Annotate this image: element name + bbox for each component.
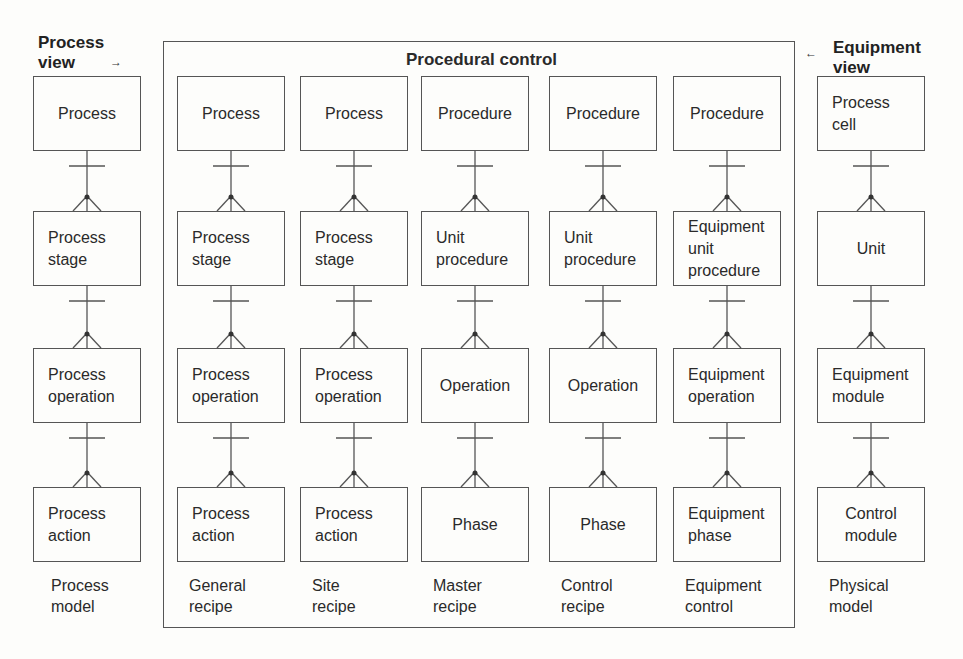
entity-box-process-model-4: Processaction — [33, 487, 141, 562]
entity-label: Process — [301, 103, 407, 125]
column-caption-master-recipe: Masterrecipe — [433, 575, 543, 617]
entity-label: Processoperation — [178, 364, 284, 408]
entity-label: Phase — [550, 514, 656, 536]
entity-label: Equipmentmodule — [818, 364, 924, 408]
entity-label: Processstage — [301, 227, 407, 271]
column-caption-site-recipe: Siterecipe — [312, 575, 422, 617]
entity-box-equipment-control-3: Equipmentoperation — [673, 348, 781, 423]
column-caption-control-recipe: Controlrecipe — [561, 575, 671, 617]
entity-box-general-recipe-2: Processstage — [177, 211, 285, 286]
entity-box-physical-model-1: Processcell — [817, 76, 925, 151]
entity-box-master-recipe-2: Unitprocedure — [421, 211, 529, 286]
entity-label: Processstage — [178, 227, 284, 271]
entity-label: Equipmentunitprocedure — [674, 216, 780, 282]
entity-box-equipment-control-1: Procedure — [673, 76, 781, 151]
entity-label: Unitprocedure — [550, 227, 656, 271]
entity-label: Processaction — [301, 503, 407, 547]
entity-box-equipment-control-2: Equipmentunitprocedure — [673, 211, 781, 286]
entity-label: Process — [34, 103, 140, 125]
entity-label: Processaction — [34, 503, 140, 547]
entity-box-control-recipe-4: Phase — [549, 487, 657, 562]
entity-label: Process — [178, 103, 284, 125]
entity-box-site-recipe-1: Process — [300, 76, 408, 151]
entity-box-physical-model-4: Controlmodule — [817, 487, 925, 562]
entity-box-master-recipe-1: Procedure — [421, 76, 529, 151]
entity-box-equipment-control-4: Equipmentphase — [673, 487, 781, 562]
entity-label: Equipmentoperation — [674, 364, 780, 408]
column-caption-physical-model: Physicalmodel — [829, 575, 939, 617]
entity-box-process-model-1: Process — [33, 76, 141, 151]
entity-box-master-recipe-3: Operation — [421, 348, 529, 423]
entity-label: Operation — [422, 375, 528, 397]
column-caption-general-recipe: Generalrecipe — [189, 575, 299, 617]
entity-box-process-model-2: Processstage — [33, 211, 141, 286]
entity-label: Phase — [422, 514, 528, 536]
entity-box-physical-model-2: Unit — [817, 211, 925, 286]
entity-label: Controlmodule — [818, 503, 924, 547]
entity-box-general-recipe-1: Process — [177, 76, 285, 151]
entity-label: Procedure — [674, 103, 780, 125]
column-caption-equipment-control: Equipmentcontrol — [685, 575, 795, 617]
entity-box-site-recipe-2: Processstage — [300, 211, 408, 286]
column-caption-process-model: Processmodel — [51, 575, 161, 617]
entity-label: Processaction — [178, 503, 284, 547]
entity-box-process-model-3: Processoperation — [33, 348, 141, 423]
entity-label: Procedure — [550, 103, 656, 125]
entity-label: Operation — [550, 375, 656, 397]
entity-box-physical-model-3: Equipmentmodule — [817, 348, 925, 423]
entity-box-site-recipe-3: Processoperation — [300, 348, 408, 423]
entity-label: Processstage — [34, 227, 140, 271]
entity-box-general-recipe-4: Processaction — [177, 487, 285, 562]
entity-label: Processcell — [818, 92, 924, 136]
entity-box-site-recipe-4: Processaction — [300, 487, 408, 562]
entity-box-master-recipe-4: Phase — [421, 487, 529, 562]
entity-label: Equipmentphase — [674, 503, 780, 547]
entity-box-general-recipe-3: Processoperation — [177, 348, 285, 423]
entity-label: Processoperation — [34, 364, 140, 408]
entity-box-control-recipe-1: Procedure — [549, 76, 657, 151]
entity-label: Unitprocedure — [422, 227, 528, 271]
entity-label: Procedure — [422, 103, 528, 125]
entity-label: Processoperation — [301, 364, 407, 408]
entity-box-control-recipe-3: Operation — [549, 348, 657, 423]
entity-box-control-recipe-2: Unitprocedure — [549, 211, 657, 286]
entity-label: Unit — [818, 238, 924, 260]
